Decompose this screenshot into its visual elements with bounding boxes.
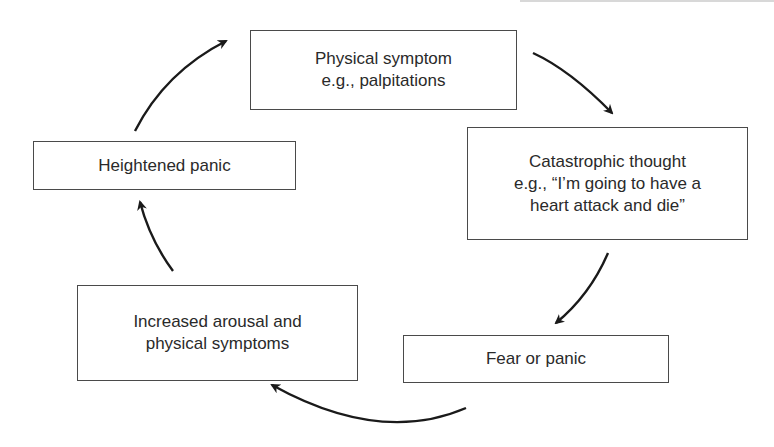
arrow-catastrophic-to-fear [556, 253, 608, 323]
node-text: e.g., “I’m going to have a [514, 173, 701, 195]
node-increased-arousal: Increased arousal and physical symptoms [77, 285, 358, 381]
arrow-arousal-to-heightened [140, 202, 173, 271]
node-physical-symptom: Physical symptom e.g., palpitations [250, 30, 517, 110]
node-text: physical symptoms [146, 333, 290, 355]
arrow-physical-to-catastrophic [533, 53, 612, 113]
node-text: Fear or panic [486, 348, 586, 370]
top-divider [520, 0, 774, 2]
node-text: Physical symptom [315, 48, 452, 70]
node-fear-or-panic: Fear or panic [403, 335, 669, 383]
arrow-fear-to-arousal [272, 385, 466, 422]
arrow-heightened-to-physical [135, 41, 226, 131]
node-text: Increased arousal and [133, 311, 301, 333]
node-catastrophic-thought: Catastrophic thought e.g., “I’m going to… [467, 127, 748, 240]
node-text: Heightened panic [98, 155, 230, 177]
node-text: heart attack and die” [530, 195, 685, 217]
node-text: Catastrophic thought [529, 151, 686, 173]
node-heightened-panic: Heightened panic [33, 141, 296, 190]
node-text: e.g., palpitations [322, 70, 446, 92]
